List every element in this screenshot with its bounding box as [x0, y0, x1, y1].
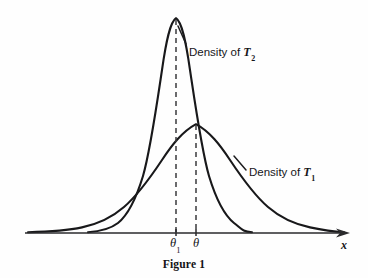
tick-theta-glyph: θ [193, 236, 199, 250]
annotation-density-of-t1: Density of T1 [249, 166, 315, 181]
tick-label-theta1: θ1 [170, 237, 180, 252]
figure-container: Density of T2 Density of T1 θ1 θ x Figur… [0, 0, 368, 278]
figure-caption: Figure 1 [0, 258, 368, 270]
annotation-t2-prefix: Density of [189, 46, 243, 58]
figure-text-layer: Density of T2 Density of T1 θ1 θ x Figur… [0, 0, 368, 278]
tick-theta1-subscript: 1 [176, 245, 180, 255]
tick-label-theta: θ [193, 237, 199, 250]
annotation-t1-symbol: T [303, 165, 310, 179]
annotation-t2-symbol: T [243, 45, 250, 59]
annotation-t2-subscript: 2 [251, 54, 255, 63]
annotation-density-of-t2: Density of T2 [189, 46, 255, 61]
annotation-t1-prefix: Density of [249, 166, 303, 178]
annotation-t1-subscript: 1 [311, 174, 315, 183]
x-axis-label: x [341, 239, 347, 251]
